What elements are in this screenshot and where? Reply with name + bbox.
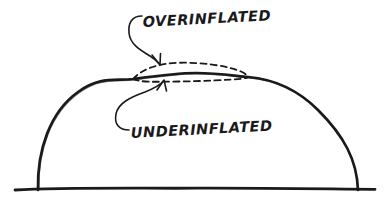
diagram-canvas: OVERINFLATED UNDERINFLATED	[0, 0, 391, 205]
over-inflated-arrowhead-icon	[152, 54, 161, 66]
under-inflated-leader-group	[116, 80, 167, 130]
ground-line-group	[15, 188, 375, 190]
label-overinflated: OVERINFLATED	[142, 7, 271, 30]
label-underinflated: UNDERINFLATED	[130, 118, 273, 141]
diagram-svg: OVERINFLATED UNDERINFLATED	[0, 0, 391, 205]
ground-line	[15, 188, 375, 190]
